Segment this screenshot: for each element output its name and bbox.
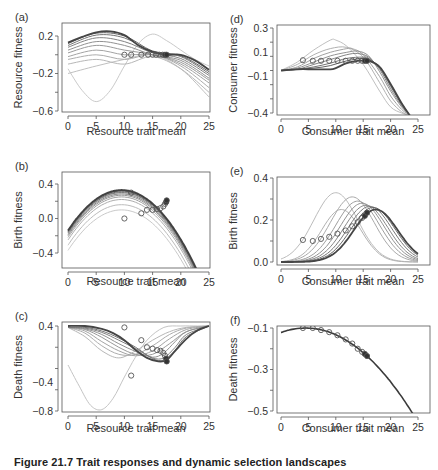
fitness-curve — [68, 210, 209, 318]
y-tick-label: −0.2 — [32, 67, 53, 79]
plot-area — [68, 190, 209, 318]
trait-mean-point — [164, 52, 169, 57]
y-tick-label: 0.0 — [38, 212, 53, 224]
y-tick-label: −0.8 — [32, 405, 53, 417]
x-axis-label: Consumer trait mean — [302, 275, 405, 287]
panel-c: 0.4−0.4−0.80510152025Resource trait mean… — [12, 310, 215, 434]
x-tick-label: 0 — [65, 420, 71, 432]
x-axis-label: Resource trait mean — [86, 275, 185, 287]
y-axis-label: Resource fitness — [12, 26, 24, 108]
plot-frame — [277, 326, 430, 413]
trait-mean-point — [122, 216, 127, 221]
x-axis-label: Consumer trait mean — [302, 125, 405, 137]
fitness-curve — [281, 39, 410, 115]
x-tick-label: 25 — [412, 421, 424, 433]
x-tick-label: 25 — [203, 420, 215, 432]
panel-label: (b) — [15, 160, 28, 172]
trait-mean-point — [364, 210, 369, 215]
x-tick-label: 25 — [412, 123, 424, 135]
y-tick-label: 0.1 — [253, 46, 268, 58]
y-tick-label: −0.4 — [32, 376, 53, 388]
x-axis-label: Resource trait mean — [86, 422, 185, 434]
trait-mean-point — [139, 338, 144, 343]
figure-canvas: 0.2−0.2−0.60510152025Resource trait mean… — [0, 0, 438, 470]
y-tick-label: 0.2 — [38, 30, 53, 42]
y-tick-label: 0.3 — [253, 22, 268, 34]
y-tick-label: 0.2 — [253, 214, 268, 226]
y-axis-label: Death fitness — [12, 334, 24, 399]
x-tick-label: 0 — [278, 421, 284, 433]
y-tick-label: −0.1 — [247, 70, 268, 82]
y-tick-label: 0.4 — [38, 178, 53, 190]
panel-a: 0.2−0.2−0.60510152025Resource trait mean… — [12, 11, 215, 137]
y-axis-label: Birth fitness — [227, 192, 239, 250]
panel-b: 0.40.0−0.40510152025Resource trait meanB… — [12, 160, 215, 318]
panel-d: 0.30.1−0.1−0.40510152025Consumer trait m… — [227, 13, 430, 137]
y-tick-label: 0.0 — [253, 256, 268, 268]
x-tick-label: 0 — [65, 120, 71, 132]
y-tick-label: −0.3 — [247, 363, 268, 375]
trait-mean-point — [164, 359, 169, 364]
plot-area — [68, 31, 209, 101]
x-tick-label: 25 — [203, 120, 215, 132]
panel-label: (f) — [230, 314, 240, 326]
y-axis-label: Consumer fitness — [227, 27, 239, 113]
y-tick-label: −0.1 — [247, 322, 268, 334]
plot-area — [281, 325, 415, 417]
panel-label: (c) — [15, 310, 28, 322]
trait-mean-point — [122, 325, 127, 330]
plot-area — [281, 39, 410, 115]
fitness-curve — [281, 47, 410, 116]
x-tick-label: 0 — [65, 276, 71, 288]
trait-mean-point — [364, 353, 369, 358]
fitness-curve — [68, 54, 209, 96]
y-tick-label: 0.4 — [253, 172, 268, 184]
y-axis-label: Death fitness — [227, 337, 239, 402]
x-tick-label: 0 — [278, 123, 284, 135]
figure-caption: Figure 21.7 Trait responses and dynamic … — [14, 456, 346, 468]
plot-area — [281, 193, 418, 262]
plot-area — [68, 325, 209, 410]
panel-f: −0.1−0.3−0.50510152025Consumer trait mea… — [227, 314, 430, 434]
y-tick-label: −0.4 — [247, 107, 268, 119]
panel-label: (a) — [15, 11, 28, 23]
y-tick-label: −0.4 — [32, 247, 53, 259]
x-tick-label: 0 — [278, 273, 284, 285]
fitness-curve — [281, 328, 415, 418]
panel-e: 0.40.20.00510152025Consumer trait meanBi… — [227, 165, 430, 287]
y-tick-label: −0.5 — [247, 405, 268, 417]
trait-mean-point — [364, 58, 369, 63]
trait-mean-point — [129, 373, 134, 378]
x-axis-label: Consumer trait mean — [302, 422, 405, 434]
x-tick-label: 25 — [203, 276, 215, 288]
x-axis-label: Resource trait mean — [86, 125, 185, 137]
trait-mean-point — [164, 198, 169, 203]
y-axis-label: Birth fitness — [12, 191, 24, 249]
panel-label: (e) — [230, 165, 243, 177]
x-tick-label: 25 — [412, 273, 424, 285]
trait-mean-point — [350, 224, 355, 229]
y-tick-label: 0.4 — [38, 320, 53, 332]
panel-label: (d) — [230, 13, 243, 25]
fitness-curve — [68, 361, 133, 410]
y-tick-label: −0.6 — [32, 105, 53, 117]
